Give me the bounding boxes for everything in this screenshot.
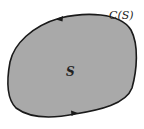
region-label: S bbox=[66, 65, 75, 79]
curve-label: C(S) bbox=[109, 9, 134, 22]
diagram-canvas: S C(S) bbox=[0, 0, 144, 129]
